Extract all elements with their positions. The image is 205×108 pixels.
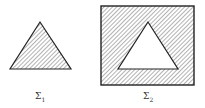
- diagram-canvas: [0, 0, 205, 108]
- sigma-2-label: Σ2: [143, 92, 153, 103]
- sigma-1-triangle: [10, 22, 71, 69]
- sigma-1-label: Σ1: [35, 92, 45, 103]
- sigma-2-square-with-hole: [101, 6, 194, 85]
